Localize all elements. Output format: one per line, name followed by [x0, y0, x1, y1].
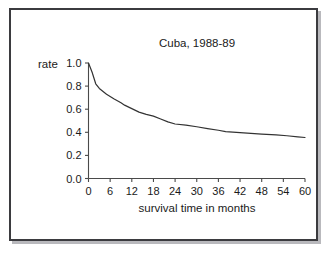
survival-curve-line — [89, 63, 306, 138]
x-tick-label: 18 — [147, 185, 159, 197]
y-axis-title: rate — [38, 58, 58, 70]
y-tick-label: 0.4 — [66, 126, 81, 138]
x-tick-label: 42 — [234, 185, 246, 197]
chart-title: Cuba, 1988-89 — [159, 37, 235, 49]
x-tick-label: 0 — [85, 185, 91, 197]
x-tick-label: 6 — [107, 185, 113, 197]
x-tick-label: 48 — [256, 185, 268, 197]
x-tick-label: 24 — [169, 185, 181, 197]
x-axis-title: survival time in months — [139, 202, 256, 214]
y-tick-label: 1.0 — [66, 57, 81, 69]
y-tick-label: 0.0 — [66, 173, 81, 185]
x-tick-label: 30 — [191, 185, 203, 197]
x-tick-group: 06121824303642485460 — [85, 179, 311, 197]
x-axis: 06121824303642485460 — [85, 179, 311, 197]
y-tick-label: 0.2 — [66, 149, 81, 161]
x-tick-label: 60 — [299, 185, 311, 197]
x-tick-label: 36 — [212, 185, 224, 197]
x-tick-label: 12 — [126, 185, 138, 197]
y-axis: 0.00.20.40.60.81.0 — [66, 57, 88, 185]
y-tick-group: 0.00.20.40.60.81.0 — [66, 57, 88, 185]
y-tick-label: 0.6 — [66, 103, 81, 115]
x-tick-label: 54 — [277, 185, 289, 197]
figure-root: Cuba, 1988-89 rate 0.00.20.40.60.81.0 06… — [0, 0, 335, 256]
y-tick-label: 0.8 — [66, 80, 81, 92]
survival-chart: Cuba, 1988-89 rate 0.00.20.40.60.81.0 06… — [0, 0, 335, 256]
